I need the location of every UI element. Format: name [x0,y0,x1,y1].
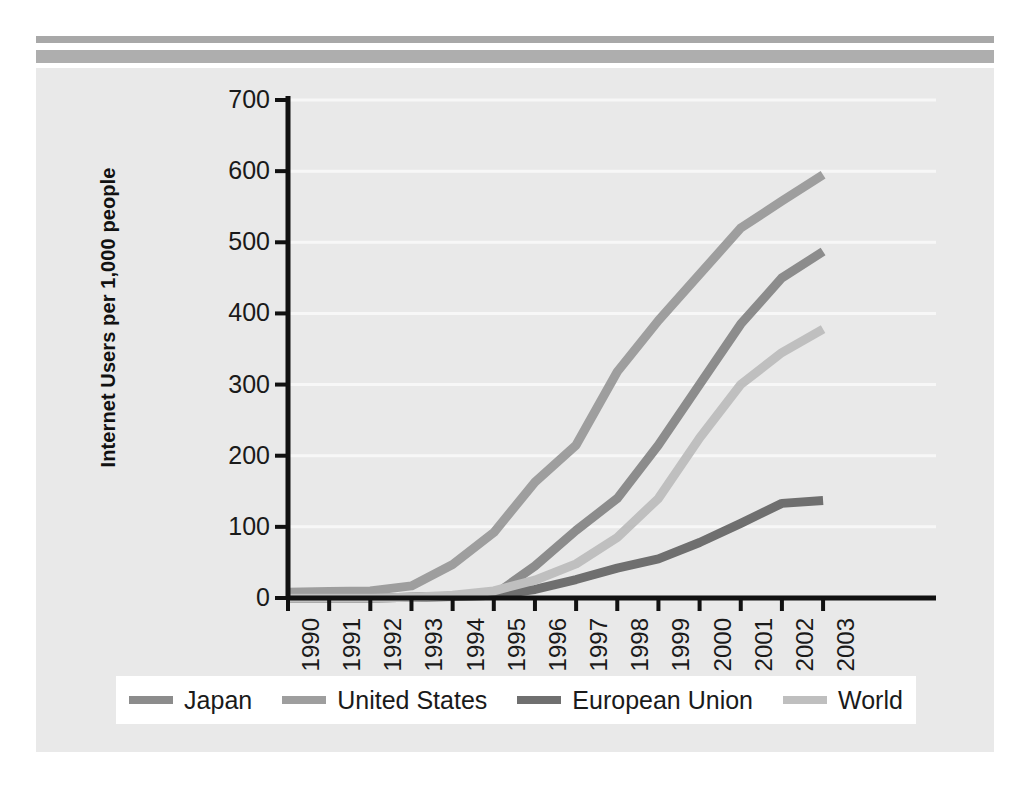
header-rule-bottom [36,50,994,63]
legend-swatch-icon [282,696,326,704]
legend-label: Japan [184,686,252,715]
chart-legend: JapanUnited StatesEuropean UnionWorld [116,676,916,724]
legend-label: United States [337,686,487,715]
legend-label: European Union [572,686,753,715]
legend-entry[interactable]: United States [282,686,487,715]
legend-label: World [838,686,903,715]
legend-swatch-icon [783,696,827,704]
legend-swatch-icon [129,696,173,704]
header-rule-top [36,36,994,43]
chart-page: Internet Users per 1,000 people 01002003… [0,0,1018,786]
legend-entry[interactable]: Japan [129,686,252,715]
line-chart: Internet Users per 1,000 people 01002003… [36,68,994,752]
legend-entry[interactable]: European Union [517,686,753,715]
chart-panel: Internet Users per 1,000 people 01002003… [36,68,994,752]
legend-swatch-icon [517,696,561,704]
legend-entry[interactable]: World [783,686,903,715]
x-axis-tick-labels: 1990199119921993199419951996199719981999… [36,68,994,752]
